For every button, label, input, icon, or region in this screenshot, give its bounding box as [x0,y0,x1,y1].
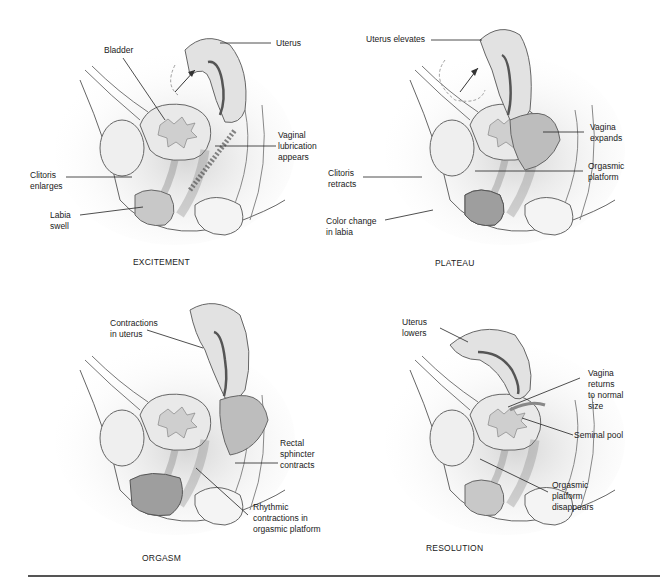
panel-excitement: Bladder Uterus Vaginal lubrication appea… [0,0,330,270]
label-rectal-sphincter: Rectal sphincter contracts [280,438,315,471]
label-labia-swell: Labia swell [50,210,71,232]
label-rhythmic-contractions: Rhythmic contractions in orgasmic platfo… [253,502,321,535]
label-contractions-uterus: Contractions in uterus [110,318,158,340]
caption-orgasm: ORGASM [142,553,181,563]
label-color-change: Color change in labia [326,216,377,238]
panel-plateau: Uterus elevates Vagina expands Clitoris … [330,0,660,270]
panel-orgasm: Contractions in uterus Rectal sphincter … [0,290,330,560]
label-vaginal-lubrication: Vaginal lubrication appears [278,130,317,163]
caption-excitement: EXCITEMENT [133,257,190,267]
label-clitoris-retracts: Clitoris retracts [328,168,356,190]
label-seminal-pool: Seminal pool [574,430,623,441]
bottom-rule [28,575,660,577]
resolution-anatomy-illustration [330,290,660,560]
label-orgasmic-platform: Orgasmic platform [588,161,624,183]
caption-resolution: RESOLUTION [426,543,483,553]
label-uterus-elevates: Uterus elevates [366,34,425,45]
caption-plateau: PLATEAU [435,258,475,268]
panel-resolution: Uterus lowers Vagina returns to normal s… [330,290,660,560]
label-vagina-expands: Vagina expands [590,122,622,144]
label-bladder: Bladder [104,45,133,56]
label-clitoris-enlarges: Clitoris enlarges [30,170,63,192]
label-uterus: Uterus [276,38,301,49]
label-orgasmic-platform-disappears: Orgasmic platform disappears [552,480,594,513]
label-uterus-lowers: Uterus lowers [402,317,427,339]
label-vagina-returns: Vagina returns to normal size [588,368,623,412]
